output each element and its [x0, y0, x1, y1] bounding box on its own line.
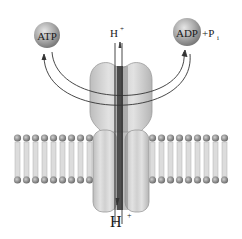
proton-bottom-label: H — [110, 213, 122, 230]
proton-bottom-superscript: + — [127, 211, 132, 220]
atp-molecule: ATP — [34, 22, 60, 48]
adp-label: ADP — [176, 27, 198, 39]
phosphate-label: +P — [202, 27, 214, 39]
membrane-bilayer-left — [13, 133, 93, 185]
atp-label: ATP — [37, 30, 57, 42]
atp-synthase-protein — [90, 63, 152, 212]
proton-top-label: H — [110, 27, 118, 39]
membrane-bilayer-right — [149, 133, 230, 185]
adp-molecule: ADP — [173, 18, 201, 46]
atp-synthase-diagram: ATP ADP +P i H + H + — [0, 0, 242, 239]
proton-top-superscript: + — [120, 25, 124, 33]
phosphate-subscript: i — [217, 34, 219, 42]
